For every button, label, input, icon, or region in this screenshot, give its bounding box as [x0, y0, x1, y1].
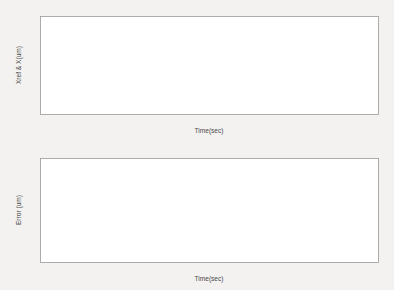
bottom-plot-tracking-error: Time(sec) Error (um) — [15, 159, 379, 284]
top-plot-axes-frame — [41, 17, 379, 115]
matlab-figure-canvas: Time(sec) Xref & X(um) Time(sec) Error (… — [0, 0, 394, 290]
bottom-plot-y-axis-label: Error (um) — [15, 195, 23, 225]
dual-plot-figure: Time(sec) Xref & X(um) Time(sec) Error (… — [0, 0, 394, 290]
top-plot-position-tracking: Time(sec) Xref & X(um) — [15, 17, 379, 136]
top-plot-x-axis-label: Time(sec) — [194, 127, 223, 135]
top-plot-y-axis-label: Xref & X(um) — [15, 46, 23, 84]
bottom-plot-x-axis-label: Time(sec) — [194, 275, 223, 283]
bottom-plot-axes-frame — [41, 159, 379, 263]
